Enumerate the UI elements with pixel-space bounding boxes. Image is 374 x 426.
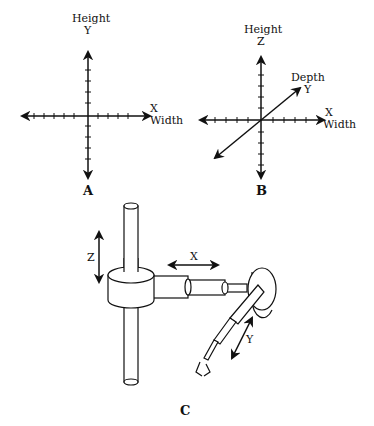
figure-c-caption: C xyxy=(180,403,190,418)
figure-c-robot xyxy=(108,203,276,385)
figure-a-axes xyxy=(22,52,150,178)
figure-a-height-label: Height xyxy=(72,13,110,25)
figure-a-width-label: Width xyxy=(150,115,183,127)
figure-b-width-label: Width xyxy=(323,119,356,131)
figure-a-y-letter: Y xyxy=(84,25,91,37)
figure-b-y-letter: Y xyxy=(304,84,311,96)
figure-b-caption: B xyxy=(256,183,267,198)
figure-a-caption: A xyxy=(83,183,93,198)
figure-c-z-label: Z xyxy=(87,252,95,264)
figure-c-x-label: X xyxy=(190,251,198,263)
figure-b-z-letter: Z xyxy=(257,36,265,48)
diagram-canvas xyxy=(0,0,374,426)
figure-c-y-label: Y xyxy=(246,334,253,346)
